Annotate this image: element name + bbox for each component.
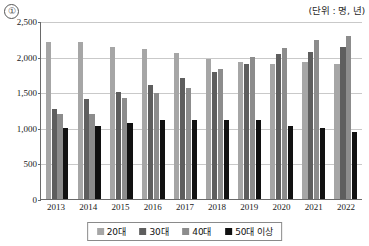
y-axis-tick-mark — [38, 200, 41, 201]
legend-item[interactable]: 40대 — [182, 225, 211, 238]
x-axis-tick-label: 2019 — [233, 202, 265, 212]
bar[interactable] — [110, 47, 115, 199]
bar[interactable] — [206, 59, 211, 199]
plot-area: 05001,0001,5002,0002,500 — [40, 22, 362, 200]
y-axis-tick-label: 0 — [33, 195, 38, 205]
legend-item-label: 20대 — [107, 225, 126, 238]
bar[interactable] — [346, 36, 351, 199]
legend-item-label: 30대 — [150, 225, 169, 238]
bar[interactable] — [276, 54, 281, 199]
bar-group — [330, 22, 362, 199]
bar[interactable] — [46, 42, 51, 199]
legend-swatch-20s — [97, 228, 104, 235]
bar[interactable] — [288, 126, 293, 199]
bar[interactable] — [314, 40, 319, 199]
bar[interactable] — [212, 72, 217, 199]
bar[interactable] — [308, 52, 313, 199]
x-axis-tick-label: 2022 — [330, 202, 362, 212]
bar[interactable] — [174, 53, 179, 199]
x-axis-tick-label: 2017 — [169, 202, 201, 212]
bar[interactable] — [218, 69, 223, 199]
x-axis-tick-label: 2018 — [201, 202, 233, 212]
bar[interactable] — [320, 128, 325, 199]
bar[interactable] — [186, 88, 191, 199]
x-axis-tick-label: 2020 — [265, 202, 297, 212]
bar-group — [105, 22, 137, 199]
legend-item-label: 50대 이상 — [235, 225, 272, 238]
bar-group — [201, 22, 233, 199]
bar[interactable] — [63, 128, 68, 199]
bar[interactable] — [95, 126, 100, 199]
y-axis-tick-label: 500 — [24, 159, 38, 169]
bar[interactable] — [352, 132, 357, 199]
bar[interactable] — [116, 92, 121, 199]
bar-group — [41, 22, 73, 199]
bar[interactable] — [224, 120, 229, 199]
bar[interactable] — [334, 64, 339, 199]
bar[interactable] — [340, 47, 345, 199]
bar[interactable] — [192, 120, 197, 199]
bar[interactable] — [244, 64, 249, 199]
bar[interactable] — [302, 62, 307, 199]
x-axis-tick-label: 2021 — [298, 202, 330, 212]
bar[interactable] — [154, 93, 159, 199]
bar[interactable] — [270, 64, 275, 199]
legend-item-label: 40대 — [192, 225, 211, 238]
legend-item[interactable]: 20대 — [97, 225, 126, 238]
bar-group — [266, 22, 298, 199]
bar[interactable] — [78, 42, 83, 199]
chart-legend: 20대30대40대50대 이상 — [87, 222, 283, 241]
x-axis-tick-label: 2014 — [72, 202, 104, 212]
y-axis-tick-label: 1,000 — [17, 124, 37, 134]
bar[interactable] — [180, 78, 185, 199]
bar[interactable] — [52, 109, 57, 199]
bar[interactable] — [282, 48, 287, 199]
bar-group — [137, 22, 169, 199]
legend-swatch-40s — [182, 228, 189, 235]
x-axis-tick-label: 2013 — [40, 202, 72, 212]
legend-item[interactable]: 50대 이상 — [225, 225, 272, 238]
y-axis-tick-label: 2,000 — [17, 53, 37, 63]
x-axis-labels: 2013201420152016201720182019202020212022 — [40, 202, 362, 212]
bar[interactable] — [84, 99, 89, 199]
x-axis-tick-label: 2016 — [137, 202, 169, 212]
y-axis-tick-label: 1,500 — [17, 88, 37, 98]
bar-groups — [41, 22, 362, 199]
chart-figure: ① (단위 : 명, 년) 05001,0001,5002,0002,500 2… — [0, 0, 369, 246]
bar[interactable] — [122, 98, 127, 199]
bar[interactable] — [250, 57, 255, 199]
bar[interactable] — [160, 120, 165, 199]
bar[interactable] — [256, 120, 261, 199]
unit-note: (단위 : 명, 년) — [309, 3, 366, 17]
bar-group — [169, 22, 201, 199]
y-axis-tick-label: 2,500 — [17, 17, 37, 27]
bar[interactable] — [238, 62, 243, 199]
bar-group — [73, 22, 105, 199]
bar-group — [298, 22, 330, 199]
bar-group — [234, 22, 266, 199]
bar[interactable] — [57, 114, 62, 199]
legend-item[interactable]: 30대 — [140, 225, 169, 238]
legend-swatch-30s — [140, 228, 147, 235]
bar[interactable] — [89, 114, 94, 199]
bar[interactable] — [127, 123, 132, 199]
bar[interactable] — [142, 49, 147, 199]
x-axis-tick-label: 2015 — [104, 202, 136, 212]
legend-swatch-50s — [225, 228, 232, 235]
bar[interactable] — [148, 85, 153, 199]
